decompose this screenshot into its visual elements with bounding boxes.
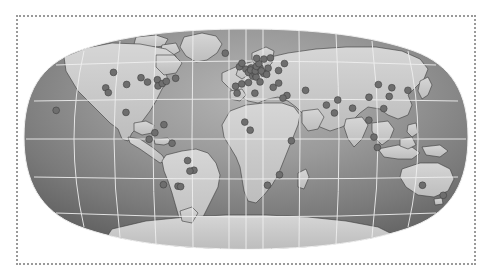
site-marker xyxy=(267,55,274,62)
site-marker xyxy=(405,87,412,94)
site-marker xyxy=(331,110,338,117)
site-marker xyxy=(105,89,112,96)
site-marker xyxy=(123,109,130,116)
site-marker xyxy=(280,95,287,102)
site-marker xyxy=(163,78,170,85)
site-marker xyxy=(275,67,282,74)
site-marker xyxy=(366,94,373,101)
site-marker xyxy=(375,81,382,88)
site-marker xyxy=(247,127,254,134)
site-marker xyxy=(232,83,239,90)
site-marker xyxy=(53,107,60,114)
site-marker xyxy=(172,75,179,82)
site-marker xyxy=(302,87,309,94)
site-marker xyxy=(239,60,246,67)
site-marker xyxy=(264,182,271,189)
site-marker xyxy=(110,69,117,76)
site-marker xyxy=(184,157,191,164)
site-marker xyxy=(281,60,288,67)
site-marker xyxy=(146,136,153,143)
site-marker xyxy=(241,119,248,126)
site-marker xyxy=(374,144,381,151)
land-tasmania xyxy=(434,198,443,205)
site-marker xyxy=(349,105,356,112)
site-marker xyxy=(160,181,167,188)
site-marker xyxy=(388,84,395,91)
site-marker xyxy=(222,50,229,57)
site-marker xyxy=(234,90,241,97)
world-map-panel xyxy=(16,15,476,265)
site-marker xyxy=(144,79,151,86)
site-marker xyxy=(257,79,264,86)
site-marker xyxy=(238,81,245,88)
site-marker xyxy=(161,121,168,128)
site-marker xyxy=(123,81,130,88)
world-map-svg xyxy=(16,15,476,265)
site-marker xyxy=(323,102,330,109)
site-marker xyxy=(169,140,176,147)
site-marker xyxy=(265,65,272,72)
site-marker xyxy=(261,56,268,63)
site-marker xyxy=(177,183,184,190)
site-marker xyxy=(245,79,252,86)
site-marker xyxy=(288,137,295,144)
site-marker xyxy=(276,171,283,178)
land-new-zealand xyxy=(460,187,469,205)
site-marker xyxy=(386,93,393,100)
site-marker xyxy=(440,192,447,199)
site-marker xyxy=(138,74,145,81)
site-marker xyxy=(419,182,426,189)
figure-root xyxy=(0,0,493,279)
site-marker xyxy=(334,97,341,104)
site-marker xyxy=(380,105,387,112)
site-marker xyxy=(275,80,282,87)
site-marker xyxy=(253,55,260,62)
site-marker xyxy=(371,134,378,141)
site-marker xyxy=(187,168,194,175)
site-marker xyxy=(263,71,270,78)
site-marker xyxy=(365,117,372,124)
site-marker xyxy=(151,129,158,136)
site-marker xyxy=(251,90,258,97)
